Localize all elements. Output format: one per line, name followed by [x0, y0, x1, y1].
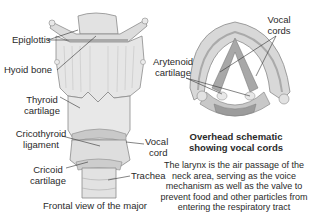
label-vocal-cords: Vocal cords [262, 15, 296, 36]
label-cricothyroid-ligament: Cricothyroid ligament [14, 129, 68, 150]
overhead-larynx-drawing [190, 22, 290, 116]
larynx-description: The larynx is the air passage of the nec… [158, 160, 310, 213]
label-thyroid-cartilage: Thyroid cartilage [20, 95, 64, 116]
label-hyoid-bone: Hyoid bone [4, 65, 52, 76]
frontal-view-caption: Frontal view of the major [30, 200, 160, 211]
label-vocal-cord: Vocal cord [145, 137, 168, 158]
label-cricoid-cartilage: Cricoid cartilage [26, 165, 70, 186]
label-arytenoid-cartilage: Arytenoid cartilage [148, 57, 198, 78]
overhead-view-title: Overhead schematic showing vocal cords [176, 131, 296, 153]
label-epiglottis: Epiglottis [12, 35, 51, 46]
